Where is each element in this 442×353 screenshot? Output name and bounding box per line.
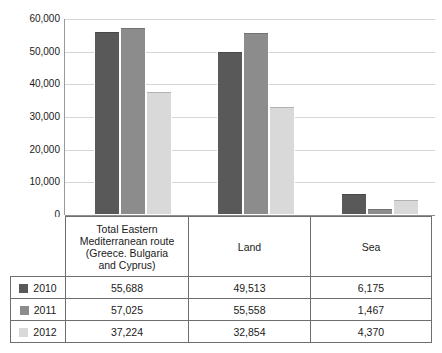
data-table: Total EasternMediterranean route(Greece.… bbox=[10, 216, 432, 343]
bars-layer bbox=[65, 19, 435, 215]
bar-2012-2 bbox=[269, 107, 295, 214]
legend-swatch-icon bbox=[19, 328, 28, 337]
value-cell: 32,854 bbox=[189, 321, 311, 343]
value-cell: 55,688 bbox=[66, 277, 189, 299]
column-header-sea: Sea bbox=[311, 217, 432, 277]
legend-swatch-icon bbox=[20, 306, 29, 315]
table-header-row: Total EasternMediterranean route(Greece.… bbox=[11, 217, 432, 277]
table-row: 201157,02555,5581,467 bbox=[11, 299, 432, 321]
header-text-line: and Cyprus) bbox=[98, 259, 155, 271]
bar-2011-1 bbox=[120, 28, 146, 214]
header-text-line: Land bbox=[238, 241, 261, 253]
bar-top-edge bbox=[218, 52, 242, 53]
column-header-land: Land bbox=[189, 217, 311, 277]
value-cell: 37,224 bbox=[66, 321, 189, 343]
column-header-total: Total EasternMediterranean route(Greece.… bbox=[66, 217, 189, 277]
table-row: 201055,68849,5136,175 bbox=[11, 277, 432, 299]
bar-2012-3 bbox=[393, 200, 419, 214]
legend-year-label: 2012 bbox=[33, 326, 56, 338]
bar-top-edge bbox=[394, 200, 418, 201]
bar-top-edge bbox=[121, 28, 145, 29]
y-axis: 010,00020,00030,00040,00050,00060,000 bbox=[0, 0, 60, 216]
legend-cell-2010: 2010 bbox=[11, 277, 66, 299]
value-cell: 6,175 bbox=[311, 277, 432, 299]
bar-2012-1 bbox=[146, 92, 172, 214]
value-cell: 49,513 bbox=[189, 277, 311, 299]
bar-top-edge bbox=[342, 194, 366, 195]
bar-2010-3 bbox=[341, 194, 367, 214]
legend-cell-2012: 2012 bbox=[11, 321, 66, 343]
legend-year-label: 2010 bbox=[33, 282, 56, 294]
bar-top-edge bbox=[368, 209, 392, 210]
bar-top-edge bbox=[270, 107, 294, 108]
y-tick-label: 30,000 bbox=[2, 112, 60, 122]
value-cell: 55,558 bbox=[189, 299, 311, 321]
value-cell: 4,370 bbox=[311, 321, 432, 343]
y-tick-label: 40,000 bbox=[2, 79, 60, 89]
table-row: 201237,22432,8544,370 bbox=[11, 321, 432, 343]
header-text-line: Mediterranean route bbox=[80, 235, 175, 247]
table-body: 201055,68849,5136,175201157,02555,5581,4… bbox=[11, 277, 432, 343]
table-corner-cell bbox=[11, 217, 66, 277]
chart-figure: 010,00020,00030,00040,00050,00060,000 To… bbox=[0, 0, 442, 353]
legend-cell-2011: 2011 bbox=[11, 299, 66, 321]
legend-swatch-icon bbox=[19, 284, 28, 293]
y-tick-label: 50,000 bbox=[2, 47, 60, 57]
value-cell: 57,025 bbox=[66, 299, 189, 321]
y-tick-label: 10,000 bbox=[2, 177, 60, 187]
bar-top-edge bbox=[244, 33, 268, 34]
bar-top-edge bbox=[147, 92, 171, 93]
bar-2010-2 bbox=[217, 52, 243, 214]
bar-chart-plot: 010,00020,00030,00040,00050,00060,000 bbox=[0, 0, 442, 216]
header-text-line: (Greece. Bulgaria bbox=[86, 247, 168, 259]
header-text-line: Total Eastern bbox=[96, 223, 157, 235]
value-cell: 1,467 bbox=[311, 299, 432, 321]
bar-2011-2 bbox=[243, 33, 269, 214]
y-tick-label: 20,000 bbox=[2, 145, 60, 155]
header-text-line: Sea bbox=[362, 241, 381, 253]
bar-2010-1 bbox=[94, 32, 120, 214]
y-tick-label: 60,000 bbox=[2, 14, 60, 24]
bar-2011-3 bbox=[367, 209, 393, 214]
legend-year-label: 2011 bbox=[34, 304, 57, 316]
bar-top-edge bbox=[95, 32, 119, 33]
